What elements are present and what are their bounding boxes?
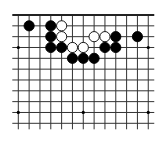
black-stone [24, 21, 34, 31]
star-point [82, 111, 85, 114]
black-stone [46, 32, 56, 42]
black-stone [100, 42, 110, 52]
black-stone [89, 53, 99, 63]
black-stone [46, 42, 56, 52]
white-stone [67, 42, 77, 52]
star-point [17, 46, 20, 49]
white-stone [57, 32, 67, 42]
star-point [147, 46, 150, 49]
black-stone [57, 42, 67, 52]
black-stone [132, 32, 142, 42]
white-stone [57, 21, 67, 31]
black-stone [78, 53, 88, 63]
white-stone [78, 42, 88, 52]
star-point [17, 111, 20, 114]
black-stone [111, 42, 121, 52]
white-stone [89, 32, 99, 42]
go-board [0, 0, 163, 145]
black-stone [111, 32, 121, 42]
white-stone [100, 32, 110, 42]
black-stone [67, 53, 77, 63]
black-stone [46, 21, 56, 31]
star-point [147, 111, 150, 114]
